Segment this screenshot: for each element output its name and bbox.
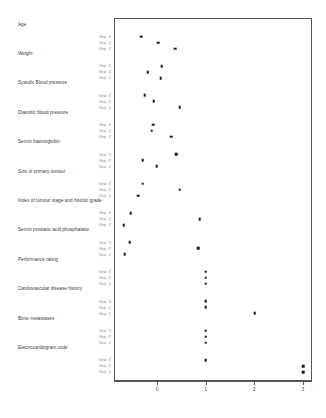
data-point [302, 371, 305, 374]
data-point [152, 124, 155, 127]
data-point [254, 312, 257, 315]
group-label: Grp. 2 [99, 159, 111, 163]
group-label: Grp. 2 [99, 70, 111, 74]
data-point [140, 35, 143, 38]
x-axis-tick-label: 1 [204, 388, 207, 393]
group-label: Grp. 3 [99, 358, 111, 362]
data-point [174, 47, 177, 50]
x-axis-tick-label: 3 [302, 388, 305, 393]
group-label: Grp. 1 [99, 194, 111, 198]
data-point [204, 329, 207, 332]
data-point [129, 212, 132, 215]
group-label: Grp. 3 [99, 153, 111, 157]
group-label: Grp. 1 [99, 282, 111, 286]
x-axis-tick [206, 381, 207, 385]
data-point [179, 188, 182, 191]
group-label: Grp. 2 [99, 306, 111, 310]
data-point [152, 100, 155, 103]
group-label: Grp. 1 [99, 47, 111, 51]
data-point [204, 271, 207, 274]
data-point [204, 300, 207, 303]
group-label: Grp. 1 [99, 370, 111, 374]
variable-label: Performance rating [18, 258, 58, 263]
data-point [204, 359, 207, 362]
data-point [155, 165, 158, 168]
data-point [150, 130, 153, 133]
data-point [142, 182, 145, 185]
group-label: Grp. 3 [99, 270, 111, 274]
data-point [157, 41, 160, 44]
data-point [197, 247, 200, 250]
variable-label: Bone metastases [18, 317, 54, 322]
group-label: Grp. 2 [99, 188, 111, 192]
group-label: Grp. 3 [99, 182, 111, 186]
group-label: Grp. 3 [99, 94, 111, 98]
group-label: Grp. 2 [99, 217, 111, 221]
data-point [160, 77, 163, 80]
data-point [142, 159, 145, 162]
group-label: Grp. 1 [99, 106, 111, 110]
data-point [144, 94, 147, 97]
data-point [199, 218, 202, 221]
group-label: Grp. 2 [99, 335, 111, 339]
group-label: Grp. 1 [99, 165, 111, 169]
data-point [170, 136, 173, 139]
variable-label: Size of primary tumour [18, 170, 65, 175]
dot-plot-chart: AgeWeightSystolic Blood pressureDiastoli… [0, 0, 326, 418]
group-label: Grp. 3 [99, 329, 111, 333]
data-point [137, 194, 140, 197]
group-label: Grp. 1 [99, 341, 111, 345]
x-axis-tick [303, 381, 304, 385]
data-point [124, 253, 127, 256]
data-point [179, 106, 182, 109]
x-axis-line [114, 381, 312, 382]
data-point [146, 71, 149, 74]
data-point [204, 335, 207, 338]
data-point [204, 306, 207, 309]
data-point [204, 283, 207, 286]
group-label: Grp. 3 [99, 241, 111, 245]
x-axis-tick [254, 381, 255, 385]
group-label: Grp. 3 [99, 211, 111, 215]
group-label: Grp. 3 [99, 64, 111, 68]
group-label: Grp. 1 [99, 312, 111, 316]
data-point [204, 341, 207, 344]
group-label: Grp. 1 [99, 135, 111, 139]
group-label: Grp. 3 [99, 300, 111, 304]
variable-label: Serum haemoglobin [18, 140, 60, 145]
group-label-column: Grp. 3Grp. 2Grp. 1Grp. 3Grp. 2Grp. 1Grp.… [60, 0, 111, 418]
group-label: Grp. 2 [99, 129, 111, 133]
variable-label: Weight [18, 52, 33, 57]
group-label: Grp. 2 [99, 41, 111, 45]
data-point [123, 224, 126, 227]
group-label: Grp. 3 [99, 35, 111, 39]
group-label: Grp. 1 [99, 253, 111, 257]
plot-area [114, 18, 312, 381]
x-axis-tick-label: 2 [253, 388, 256, 393]
group-label: Grp. 1 [99, 223, 111, 227]
x-axis-tick [157, 381, 158, 385]
x-axis-tick-label: 0 [156, 388, 159, 393]
group-label: Grp. 2 [99, 247, 111, 251]
variable-label: Age [18, 23, 26, 28]
data-point [161, 65, 164, 68]
data-point [204, 277, 207, 280]
group-label: Grp. 2 [99, 276, 111, 280]
group-label: Grp. 2 [99, 364, 111, 368]
group-label: Grp. 1 [99, 76, 111, 80]
group-label: Grp. 2 [99, 100, 111, 104]
data-point [302, 365, 305, 368]
data-point [128, 241, 131, 244]
group-label: Grp. 3 [99, 123, 111, 127]
data-point [175, 153, 178, 156]
